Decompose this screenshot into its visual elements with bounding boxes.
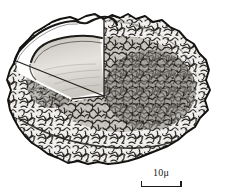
scale-bar-graphic: [141, 180, 182, 187]
scale-bar-line: [141, 186, 182, 187]
scale-bar: 10μ: [133, 167, 189, 189]
scale-bar-tick-right: [180, 181, 181, 187]
scale-bar-label: 10μ: [133, 167, 189, 178]
figure-root: 10μ: [0, 0, 226, 193]
specimen-illustration: [0, 0, 226, 193]
